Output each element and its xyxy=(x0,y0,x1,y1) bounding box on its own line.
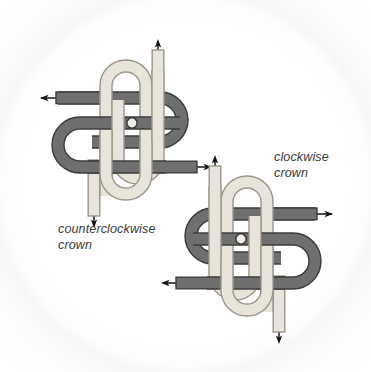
label-counterclockwise-crown: counterclockwise crown xyxy=(58,222,156,253)
knot-clockwise-crown xyxy=(161,155,333,344)
figure-canvas: counterclockwise crown clockwise crown xyxy=(0,0,371,372)
center-eye xyxy=(236,234,246,244)
label-clockwise-crown: clockwise crown xyxy=(274,150,329,181)
crown-knot-diagram xyxy=(0,0,371,372)
knot-counterclockwise-crown xyxy=(40,39,212,228)
center-eye xyxy=(127,118,137,128)
